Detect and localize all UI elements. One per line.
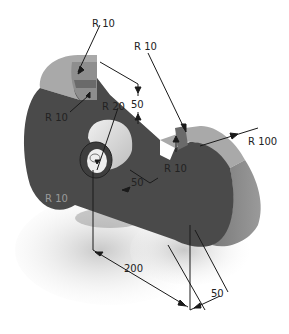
label-r20-hole: R 20 [102,101,125,112]
label-overall-length: 200 [124,263,143,274]
isometric-part-drawing: R 10 R 10 R 10 R 20 50 R 10 R 100 50 200… [0,0,289,334]
label-r100-outer: R 100 [248,136,277,147]
label-r10-left: R 10 [45,112,68,123]
cad-drawing: R 10 R 10 R 10 R 20 50 R 10 R 100 50 200… [0,0,289,334]
label-thickness: 50 [211,288,224,299]
label-r10-reflection: R 10 [45,193,68,204]
label-r10-slot-right: R 10 [164,163,187,174]
label-r10-top-left: R 10 [92,18,115,29]
label-r10-top-mid: R 10 [134,41,157,52]
label-boss-length: 50 [131,177,144,188]
label-slot-width: 50 [131,99,144,110]
